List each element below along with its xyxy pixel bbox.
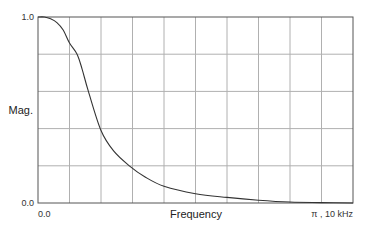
grid [38, 17, 353, 203]
y-tick-top: 1.0 [21, 12, 34, 22]
chart: 1.0 0.0 0.0 π , 10 kHz Mag. Frequency [0, 0, 371, 230]
x-tick-right: π , 10 kHz [311, 209, 353, 219]
y-axis-label: Mag. [9, 104, 33, 116]
x-tick-left: 0.0 [38, 209, 51, 219]
y-tick-bottom: 0.0 [21, 198, 34, 208]
x-axis-label: Frequency [170, 208, 222, 220]
